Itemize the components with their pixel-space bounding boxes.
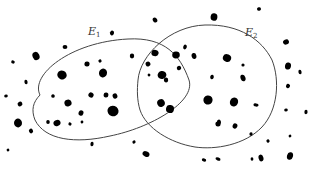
scatter-point [46,120,50,124]
scatter-point [253,103,259,107]
scatter-point [51,94,55,98]
scatter-point [298,70,302,75]
scatter-point [165,104,174,113]
diagram-svg [0,0,332,174]
set-e2-label-main: E [245,26,253,39]
scatter-point [285,83,290,89]
scatter-point [11,60,15,64]
scatter-point [6,148,10,152]
set-e1-label: E1 [88,26,101,39]
scatter-point [257,7,262,12]
scatter-point [191,53,197,60]
scatter-point [210,74,215,79]
scatter-point [109,30,114,36]
scatter-point [258,154,264,162]
scatter-point [31,51,41,61]
set-e1-label-sub: 1 [96,31,100,39]
scatter-point [28,128,34,134]
scatter-point [78,110,85,117]
scatter-point [147,73,151,77]
scatter-point [145,61,151,67]
scatter-point [266,139,270,143]
scatter-point [17,101,24,108]
scatter-point [52,119,61,127]
scatter-point [103,92,108,98]
scatter-point [152,17,158,24]
scatter-point [64,99,73,107]
scatter-point [286,152,294,161]
scatter-point [284,62,291,70]
scatter-point [56,69,68,81]
scatter-point [304,110,307,115]
scatter-point [203,95,213,105]
scatter-point [80,120,83,123]
scatter-point [142,150,151,158]
scatter-point [282,38,290,45]
scatter-point [130,54,134,59]
set-e1-label-main: E [88,25,96,38]
scatter-point [210,13,218,21]
scatter-point [288,134,292,138]
scatter-point [176,65,182,71]
scatter-point [98,68,108,79]
scatter-point [84,61,89,66]
set-e2-label: E2 [245,27,258,40]
scatter-point [132,140,136,144]
scatter-point [222,53,233,63]
scatter-point [156,98,166,108]
scatter-point [183,44,188,50]
scatter-point [88,92,95,99]
set-e2-label-sub: 2 [253,32,257,40]
scatter-point [215,157,221,162]
scatter-point [251,157,254,161]
scatter-point [90,142,94,147]
scatter-point [68,122,72,126]
scatter-point [63,45,68,49]
scatter-point [106,104,120,117]
venn-diagram: E1 E2 [0,0,332,174]
scatter-point [4,94,8,98]
scatter-point [241,63,244,66]
scatter-point [112,93,118,99]
scatter-point [240,74,247,82]
scatter-point [14,118,23,127]
scatter-points [4,7,308,162]
scatter-point [284,108,288,112]
scatter-point [228,96,239,108]
scatter-point [232,123,238,130]
scatter-point [98,59,102,63]
scatter-point [202,158,207,162]
scatter-point [24,80,28,85]
